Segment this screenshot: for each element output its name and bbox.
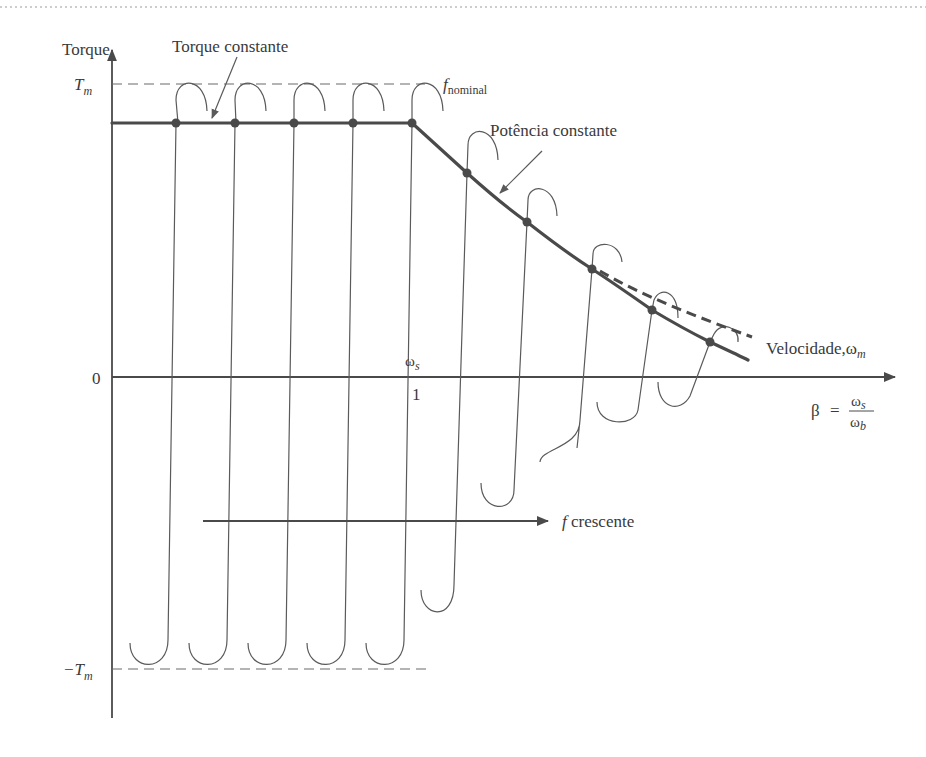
fraction-numerator: ωs [851, 393, 866, 412]
equals-sign: = [830, 401, 840, 420]
speed-label: Velocidade,ωm [766, 339, 866, 361]
constant-torque-pointer-arrow [212, 57, 237, 118]
tm-negative-label: −Tm [63, 660, 93, 683]
x-tick-one-label: 1 [412, 385, 421, 404]
omega-s-label: ωs [405, 353, 420, 373]
tm-negative-sub: m [84, 669, 93, 683]
omega-s-sub: s [415, 359, 420, 373]
increasing-f-text: crescente [567, 512, 634, 531]
fraction-denominator: ωb [850, 414, 866, 433]
torque-speed-curves-constant-power [421, 131, 738, 611]
torque-speed-curves-constant-torque [130, 83, 443, 664]
torque-speed-diagram: Torque Tm 0 −Tm Torque constante fnomina… [0, 0, 926, 757]
x-axis-label: β = ωs ωb [811, 393, 874, 433]
tm-positive-label: Tm [74, 75, 92, 98]
increasing-f-label: f crescente [562, 512, 634, 531]
speed-main: Velocidade,ω [766, 339, 857, 358]
beta-symbol: β [811, 401, 820, 420]
constant-power-label: Potência constante [490, 121, 617, 140]
constant-torque-label: Torque constante [172, 37, 288, 56]
f-nominal-sub: nominal [448, 83, 488, 97]
omega-s-main: ω [405, 353, 415, 369]
speed-sub: m [857, 347, 866, 361]
f-nominal-label: fnominal [443, 75, 488, 97]
constant-power-pointer-arrow [500, 151, 542, 193]
tm-negative-main: −T [63, 660, 85, 679]
zero-label: 0 [92, 369, 101, 388]
y-axis-label: Torque [62, 40, 110, 59]
tm-positive-sub: m [83, 84, 92, 98]
